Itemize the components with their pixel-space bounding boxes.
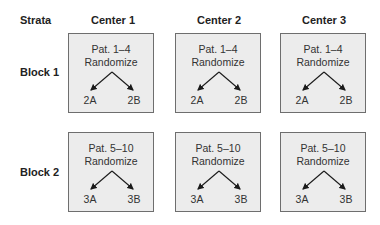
randomization-box-block2-center3: Pat. 5–10 Randomize 3A 3B <box>280 132 366 212</box>
arm-a-label: 3A <box>78 193 102 205</box>
arm-a-label: 2A <box>290 94 314 106</box>
arm-a-label: 2A <box>78 94 102 106</box>
arm-b-label: 3B <box>334 193 358 205</box>
center-3-header: Center 3 <box>302 14 346 26</box>
block-1-label: Block 1 <box>20 66 59 78</box>
arm-b-label: 3B <box>122 193 146 205</box>
randomization-box-block2-center1: Pat. 5–10 Randomize 3A 3B <box>68 132 154 212</box>
center-1-header: Center 1 <box>91 14 135 26</box>
arm-b-label: 2B <box>229 94 253 106</box>
arm-b-label: 2B <box>334 94 358 106</box>
strata-header: Strata <box>20 14 51 26</box>
arm-a-label: 2A <box>185 94 209 106</box>
randomization-box-block2-center2: Pat. 5–10 Randomize 3A 3B <box>175 132 261 212</box>
center-2-header: Center 2 <box>197 14 241 26</box>
randomization-box-block1-center3: Pat. 1–4 Randomize 2A 2B <box>280 33 366 113</box>
arm-b-label: 3B <box>229 193 253 205</box>
arm-a-label: 3A <box>185 193 209 205</box>
block-2-label: Block 2 <box>20 166 59 178</box>
randomization-box-block1-center2: Pat. 1–4 Randomize 2A 2B <box>175 33 261 113</box>
arm-b-label: 2B <box>122 94 146 106</box>
arm-a-label: 3A <box>290 193 314 205</box>
randomization-box-block1-center1: Pat. 1–4 Randomize 2A 2B <box>68 33 154 113</box>
